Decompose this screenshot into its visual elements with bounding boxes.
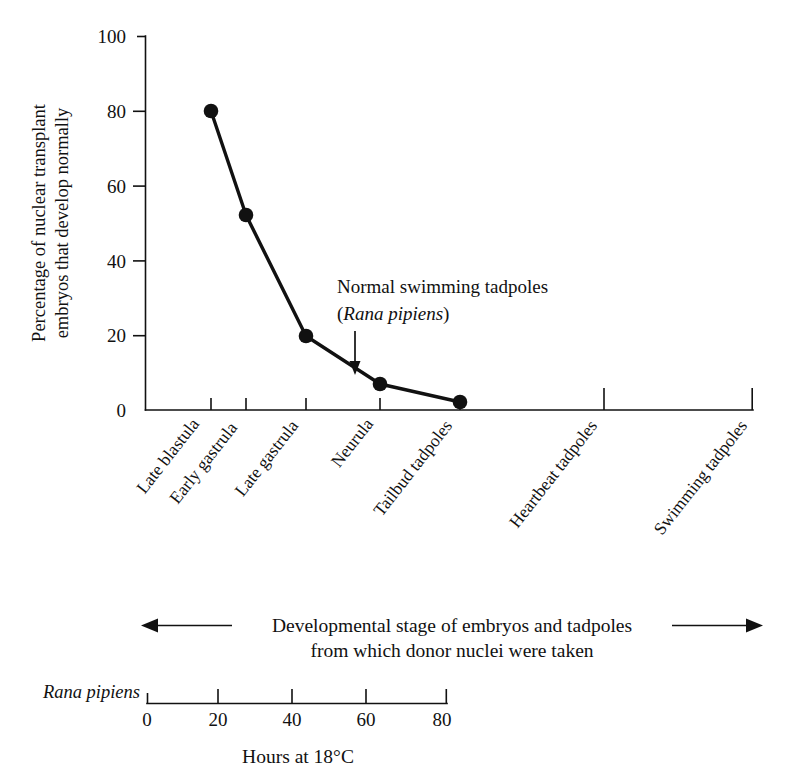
y-tick-label-60: 60 [107,176,126,197]
y-tick-label-100: 100 [98,26,127,47]
series-line-path [211,111,460,402]
y-axis: 100 80 60 40 20 0 [98,26,146,421]
developmental-stage-caption: Developmental stage of embryos and tadpo… [141,615,763,661]
data-point-late-blastula [204,104,219,119]
x-label-swimming-tadpoles: Swimming tadpoles [649,416,751,538]
nuclear-transplant-figure: Percentage of nuclear transplant embryos… [0,0,788,781]
time-scale-species-label: Rana pipiens [42,682,140,702]
caption-left-arrow-head-icon [141,619,158,633]
y-axis-title: Percentage of nuclear transplant embryos… [29,103,72,342]
time-tick-label-20: 20 [209,709,228,730]
y-tick-label-40: 40 [107,251,126,272]
annotation-species-name: Rana pipiens [342,303,443,324]
data-point-tailbud-tadpoles [453,395,468,410]
time-scale-title: Hours at 18°C [242,746,354,767]
data-point-late-gastrula [299,329,314,344]
caption-right-arrow-head-icon [746,619,763,633]
x-axis-category-labels: Late blastula Early gastrula Late gastru… [132,414,751,538]
time-scale: Rana pipiens 0 20 40 60 80 Hours at 18°C [42,682,452,767]
y-tick-label-0: 0 [117,400,127,421]
y-axis-title-line2: embryos that develop normally [52,107,72,338]
y-tick-label-20: 20 [107,325,126,346]
x-label-heartbeat-tadpoles: Heartbeat tadpoles [505,416,601,531]
x-label-tailbud-tadpoles: Tailbud tadpoles [369,416,456,520]
caption-line2: from which donor nuclei were taken [310,640,593,661]
annotation-normal-swimming-tadpoles: Normal swimming tadpoles (Rana pipiens) [337,276,548,375]
y-tick-label-80: 80 [107,101,126,122]
caption-line1: Developmental stage of embryos and tadpo… [272,615,632,636]
data-point-early-gastrula [239,208,254,223]
y-axis-title-line1: Percentage of nuclear transplant [29,103,49,342]
annotation-paren-close: ) [443,303,449,325]
data-point-neurula [373,377,388,392]
x-label-neurula: Neurula [327,414,378,471]
time-tick-label-0: 0 [142,709,152,730]
annotation-arrow-head-icon [350,361,361,375]
data-series [204,104,468,410]
time-tick-label-40: 40 [283,709,302,730]
x-label-late-gastrula: Late gastrula [230,416,302,500]
time-tick-label-80: 80 [433,709,452,730]
annotation-line2: (Rana pipiens) [337,303,449,325]
time-tick-label-60: 60 [357,709,376,730]
annotation-line1: Normal swimming tadpoles [337,276,548,297]
